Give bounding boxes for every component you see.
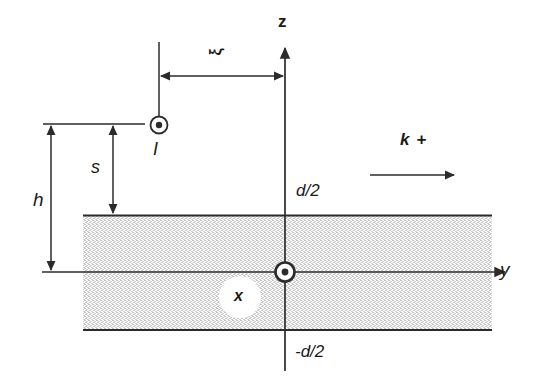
s-dimension-label: s <box>91 158 100 176</box>
line-current-source-symbol <box>151 117 168 134</box>
z-axis-label: z <box>278 13 287 30</box>
x-axis-label: x <box>234 288 243 304</box>
slab-bottom-boundary-label: -d/2 <box>295 343 324 360</box>
propagation-label: k + <box>400 131 427 148</box>
origin-axis-symbol <box>276 263 295 282</box>
diagram-svg <box>0 0 556 383</box>
slab-top-boundary-label: d/2 <box>296 182 320 199</box>
xi-dimension-label: ξ <box>208 48 224 55</box>
current-source-label: I <box>153 140 158 158</box>
y-axis-label: y <box>500 260 510 279</box>
h-dimension-label: h <box>33 190 44 209</box>
origin-dot <box>282 269 289 276</box>
current-source-dot <box>156 122 162 128</box>
figure-canvas: z y ξ I h s d/2 -d/2 k + x <box>0 0 556 383</box>
